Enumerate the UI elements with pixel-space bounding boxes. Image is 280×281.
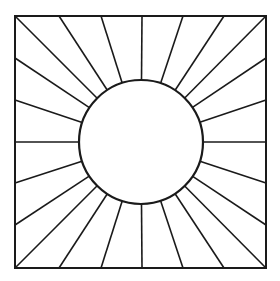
sunburst-svg (0, 0, 280, 281)
sunburst-diagram (0, 0, 280, 281)
center-circle (79, 80, 203, 204)
ray-line (142, 16, 143, 80)
ray-line (142, 204, 143, 268)
